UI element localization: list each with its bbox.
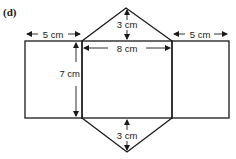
prism-net-diagram: (d) 5 cm 5 cm 8 cm 7 cm 3 cm 3 cm [0, 0, 236, 159]
right-width-dimension: 5 cm [174, 29, 227, 40]
right-width-label: 5 cm [190, 29, 211, 40]
part-label: (d) [3, 6, 17, 19]
left-width-label: 5 cm [43, 29, 64, 40]
left-rectangle [25, 41, 82, 118]
top-triangle-height-label: 3 cm [117, 19, 138, 30]
left-width-dimension: 5 cm [27, 29, 80, 40]
bottom-triangle-height-dimension: 3 cm [117, 120, 138, 150]
height-dimension: 7 cm [59, 43, 80, 116]
bottom-triangle-height-label: 3 cm [117, 130, 138, 141]
height-label: 7 cm [59, 68, 80, 79]
middle-width-label: 8 cm [117, 43, 138, 54]
right-rectangle [172, 41, 229, 118]
middle-width-dimension: 8 cm [84, 43, 170, 54]
